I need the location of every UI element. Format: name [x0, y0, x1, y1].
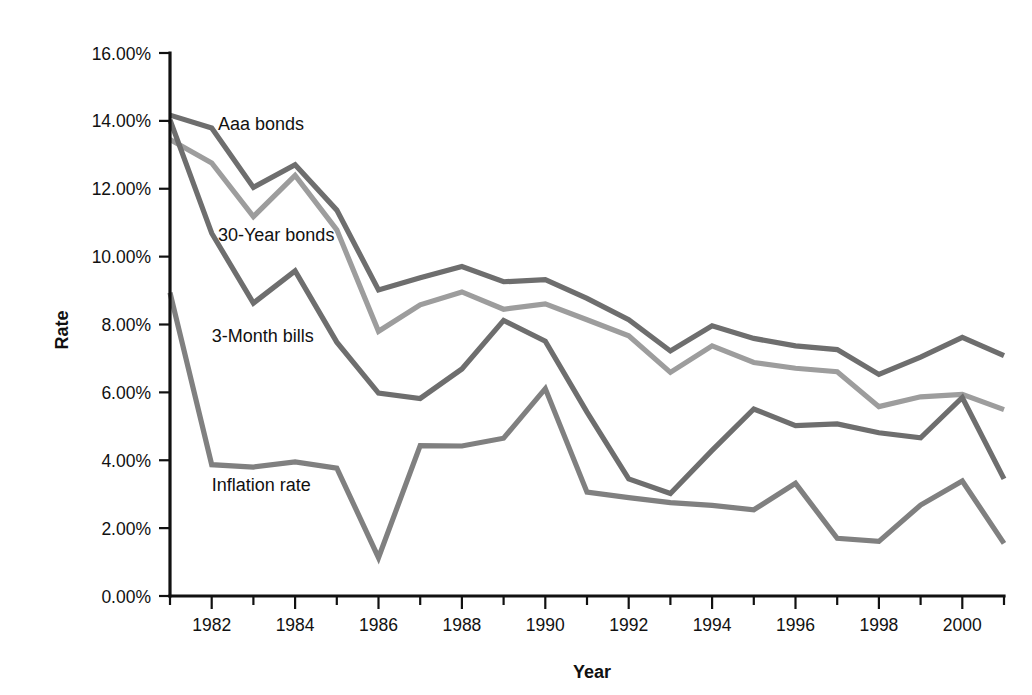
x-tick-label: 1986 — [359, 615, 398, 635]
y-tick-label: 10.00% — [92, 247, 151, 267]
x-tick-label: 1994 — [693, 615, 732, 635]
y-axis-title: Rate — [52, 310, 72, 349]
series-label-3-month-bills: 3-Month bills — [212, 326, 314, 346]
y-tick-label: 6.00% — [101, 383, 151, 403]
y-tick-label: 14.00% — [92, 111, 151, 131]
y-tick-label: 4.00% — [101, 451, 151, 471]
x-tick-label: 1996 — [776, 615, 815, 635]
chart-canvas: 0.00%2.00%4.00%6.00%8.00%10.00%12.00%14.… — [0, 0, 1032, 695]
x-tick-label-group: 1982198419861988199019921994199619982000 — [192, 615, 982, 635]
x-tick-label: 1988 — [442, 615, 481, 635]
series-label-inflation-rate: Inflation rate — [212, 475, 311, 495]
series-label-30-year-bonds: 30-Year bonds — [218, 225, 334, 245]
x-tick-label: 1992 — [609, 615, 648, 635]
series-label-aaa-bonds: Aaa bonds — [218, 114, 304, 134]
x-tick-label: 1998 — [859, 615, 898, 635]
y-tick-label: 0.00% — [101, 587, 151, 607]
y-tick-label: 12.00% — [92, 179, 151, 199]
axes-group — [170, 53, 1004, 596]
y-tick-label: 8.00% — [101, 315, 151, 335]
y-tick-label: 2.00% — [101, 519, 151, 539]
x-tick-group — [170, 596, 1004, 609]
x-tick-label: 1990 — [526, 615, 565, 635]
rate-line-chart: 0.00%2.00%4.00%6.00%8.00%10.00%12.00%14.… — [0, 0, 1032, 695]
y-tick-label-group: 0.00%2.00%4.00%6.00%8.00%10.00%12.00%14.… — [92, 44, 151, 607]
y-tick-group — [159, 53, 170, 596]
y-tick-label: 16.00% — [92, 44, 151, 64]
x-tick-label: 1984 — [276, 615, 315, 635]
x-axis-title: Year — [573, 662, 611, 682]
x-tick-label: 2000 — [943, 615, 982, 635]
x-tick-label: 1982 — [192, 615, 231, 635]
